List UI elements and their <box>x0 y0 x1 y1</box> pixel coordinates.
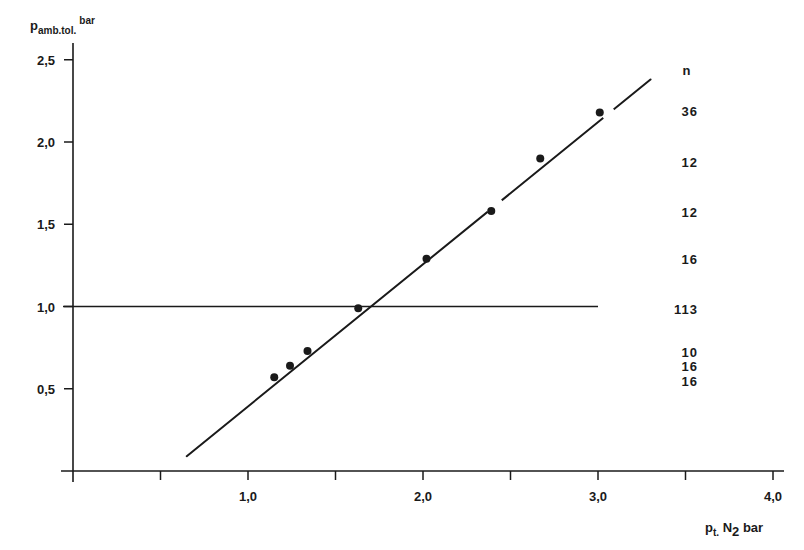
n-value-label: 16 <box>682 359 698 374</box>
x-tick-label: 3,0 <box>589 489 607 504</box>
data-point <box>304 347 312 355</box>
data-point <box>423 255 431 263</box>
x-tick-label: 2,0 <box>414 489 432 504</box>
y-tick-label: 1,5 <box>37 217 55 232</box>
n-value-label: 12 <box>682 205 698 220</box>
n-value-label: 36 <box>682 104 698 119</box>
x-tick-label: 4,0 <box>764 489 782 504</box>
data-point <box>596 108 604 116</box>
data-point <box>487 207 495 215</box>
y-tick-label: 2,5 <box>37 53 55 68</box>
plot-lines <box>63 79 651 456</box>
data-point <box>536 154 544 162</box>
y-tick-label: 0,5 <box>37 382 55 397</box>
x-tick-label: 1,0 <box>239 489 257 504</box>
data-points <box>270 108 604 381</box>
data-point <box>270 373 278 381</box>
data-point <box>354 304 362 312</box>
regression-line <box>187 79 651 456</box>
data-point <box>286 362 294 370</box>
n-value-label: 113 <box>674 302 698 317</box>
n-value-label: 16 <box>682 374 698 389</box>
y-axis-title: pamb.tol.bar <box>30 15 95 36</box>
n-column-header: n <box>683 63 692 78</box>
y-tick-label: 2,0 <box>37 135 55 150</box>
x-axis-title: pt. N2 bar <box>705 520 763 539</box>
y-tick-label: 1,0 <box>37 300 55 315</box>
chart: 1,02,03,04,00,51,01,52,02,5n361212161131… <box>0 0 804 550</box>
n-value-label: 10 <box>682 345 698 360</box>
n-value-label: 12 <box>682 155 698 170</box>
n-value-label: 16 <box>682 252 698 267</box>
line-gap <box>603 109 614 118</box>
axes <box>61 43 784 482</box>
